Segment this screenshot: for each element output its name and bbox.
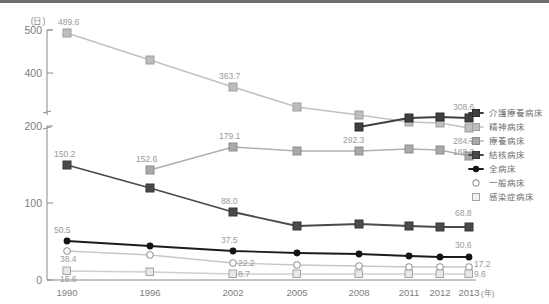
legend-item-kansensho-byosho[interactable]: 感染症病床	[473, 192, 535, 202]
data-point	[294, 262, 300, 268]
data-point	[405, 145, 413, 153]
data-point	[229, 270, 237, 278]
legend-item-seishin-byosho[interactable]: 精神病床	[469, 122, 525, 132]
legend-label: 療養病床	[489, 136, 525, 146]
data-point	[465, 124, 473, 132]
legend-item-ippan-byosho[interactable]: 一般病床	[473, 178, 525, 188]
x-tick-1990: 1990	[56, 287, 77, 298]
data-point	[405, 114, 413, 122]
data-point	[405, 270, 413, 278]
y-axis-ticks	[47, 30, 53, 280]
data-point	[356, 263, 362, 269]
data-label-308-6: 308.6	[453, 102, 475, 112]
data-point	[63, 161, 71, 169]
x-tick-1996: 1996	[139, 287, 160, 298]
data-label-8-7: 8.7	[238, 269, 250, 279]
legend-marker-medium-square-icon	[473, 138, 480, 145]
data-label-22-2: 22.2	[238, 258, 255, 268]
series-kekkaku-byosho	[63, 161, 473, 231]
legend-label: 一般病床	[489, 178, 525, 188]
x-tick-2012: 2012	[429, 287, 450, 298]
data-point	[230, 260, 236, 266]
data-label-292-3: 292.3	[343, 135, 365, 145]
data-point	[355, 123, 363, 131]
data-point	[405, 222, 413, 230]
data-point	[436, 146, 444, 154]
y-tick-500: 500	[24, 24, 42, 36]
y-tick-0: 0	[36, 274, 42, 286]
y-tick-200: 200	[24, 120, 42, 132]
data-point	[229, 208, 237, 216]
legend: 介護療養病床 精神病床 療養病床 結核病床	[469, 108, 543, 202]
data-label-38-4: 38.4	[60, 254, 77, 264]
legend-item-kaigo-ryoyo-byosho[interactable]: 介護療養病床	[469, 108, 543, 118]
series-ryoyo-byosho	[146, 143, 473, 174]
data-point	[355, 111, 363, 119]
legend-item-ryoyo-byosho[interactable]: 療養病床	[469, 136, 525, 146]
x-axis-unit-label: (年)	[481, 288, 495, 298]
series-ippan-byosho	[64, 248, 472, 270]
data-point	[146, 268, 154, 276]
data-point	[355, 147, 363, 155]
data-point	[465, 114, 473, 122]
data-point	[437, 264, 443, 270]
data-point	[63, 29, 71, 37]
data-point	[294, 250, 301, 257]
data-point	[147, 252, 153, 258]
data-point	[293, 222, 301, 230]
data-point	[436, 270, 444, 278]
data-point	[293, 147, 301, 155]
series-zen-byosho	[64, 238, 473, 261]
data-point	[406, 253, 413, 260]
y-axis	[43, 30, 52, 280]
legend-marker-light-square-icon	[473, 124, 480, 131]
data-label-17-2: 17.2	[474, 259, 491, 269]
data-point	[355, 270, 363, 278]
data-point	[146, 184, 154, 192]
data-point	[436, 223, 444, 231]
data-label-9-6: 9.6	[474, 269, 486, 279]
data-point	[229, 143, 237, 151]
data-point	[466, 254, 473, 261]
x-tick-2013: 2013	[458, 287, 479, 298]
legend-label: 全病床	[489, 164, 516, 174]
x-tick-2011: 2011	[399, 287, 419, 298]
data-point	[356, 251, 363, 258]
data-label-68-8: 68.8	[455, 208, 472, 218]
data-point	[146, 166, 154, 174]
legend-item-zen-byosho[interactable]: 全病床	[469, 164, 516, 174]
data-point	[146, 56, 154, 64]
data-point	[229, 83, 237, 91]
legend-label: 精神病床	[489, 122, 525, 132]
data-label-150-2: 150.2	[54, 149, 76, 159]
legend-item-kekkaku-byosho[interactable]: 結核病床	[469, 150, 525, 160]
data-label-88-0: 88.0	[221, 196, 238, 206]
legend-marker-filled-square-icon	[473, 152, 480, 159]
data-point	[466, 264, 472, 270]
data-label-15-6: 15.6	[60, 274, 77, 284]
data-point	[436, 113, 444, 121]
data-point	[437, 254, 444, 261]
legend-marker-filled-circle-icon	[473, 166, 479, 172]
data-label-30-6: 30.6	[455, 240, 472, 250]
figure-frame: (日) 500 400 200 100 0 1990 1996 2002 200…	[0, 0, 549, 304]
data-label-363-7: 363.7	[219, 71, 241, 81]
x-tick-2005: 2005	[286, 287, 307, 298]
x-tick-2002: 2002	[222, 287, 243, 298]
data-point	[147, 243, 154, 250]
data-label-489-6: 489.6	[58, 17, 80, 27]
data-point	[465, 270, 473, 278]
legend-label: 介護療養病床	[489, 108, 543, 118]
data-point	[230, 248, 237, 255]
y-tick-100: 100	[24, 197, 42, 209]
data-label-50-5: 50.5	[54, 225, 71, 235]
legend-marker-open-circle-icon	[473, 180, 479, 186]
data-point	[406, 264, 412, 270]
data-point	[355, 220, 363, 228]
data-point	[64, 238, 71, 245]
data-label-179-1: 179.1	[219, 131, 241, 141]
legend-label: 感染症病床	[489, 192, 534, 202]
x-tick-2008: 2008	[348, 287, 369, 298]
chart-svg: (日) 500 400 200 100 0 1990 1996 2002 200…	[0, 3, 549, 304]
data-label-152-6: 152.6	[136, 154, 158, 164]
